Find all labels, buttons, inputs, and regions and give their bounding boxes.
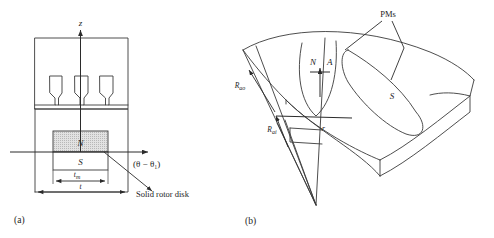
- notch-outline: [290, 128, 322, 144]
- slot-1: [50, 76, 62, 105]
- radial-center-line: [316, 38, 325, 205]
- z-axis-label: z: [78, 18, 83, 28]
- radius-outer-label: Rao: [234, 81, 246, 91]
- notch-top: [290, 128, 322, 130]
- panel-b-group: PMs N A S Rao Rai r (b): [234, 9, 474, 227]
- panel-a-caption: (a): [14, 215, 25, 226]
- radius-inner-leader: [276, 116, 288, 147]
- pms-label: PMs: [380, 9, 396, 19]
- radius-r-label: r: [322, 124, 325, 133]
- point-a-label: A: [326, 57, 333, 67]
- radius-inner-label: Rai: [266, 125, 277, 135]
- pms-leader-to-south: [391, 48, 404, 80]
- panel-a-group: N S z (θ − θ₁) tm t Solid rotor disk (a): [10, 18, 190, 226]
- outer-arc: [243, 32, 474, 81]
- inner-radius-notch: [290, 128, 322, 144]
- radius-r-line: [276, 116, 352, 118]
- magnet-north-label-b: N: [309, 57, 317, 67]
- dim-pole-pitch-label: t: [79, 182, 82, 191]
- right-side-face: [380, 96, 470, 176]
- disk-thickness: [286, 96, 470, 176]
- right-radial-edge: [430, 80, 474, 96]
- radial-line-inner-left: [277, 123, 316, 205]
- pms-leader-right: [392, 21, 404, 48]
- stator-slots: [35, 76, 128, 105]
- dim-pole-pitch: t: [38, 182, 125, 192]
- magnet-south-label-b: S: [390, 91, 395, 101]
- pms-leader-left: [345, 21, 382, 50]
- slot-3: [100, 76, 113, 105]
- figure-svg: N S z (θ − θ₁) tm t Solid rotor disk (a): [0, 0, 494, 238]
- solid-rotor-disk-label: Solid rotor disk: [136, 189, 190, 199]
- theta-angle-label: (θ − θ₁): [133, 159, 160, 169]
- left-side-face: [286, 100, 380, 176]
- panel-b-caption: (b): [245, 216, 256, 227]
- radius-outer-leader: [249, 70, 275, 112]
- magnet-south-label: S: [78, 157, 83, 167]
- magnet-north-outline: [299, 41, 336, 116]
- slot-2: [75, 76, 88, 105]
- figure-container: N S z (θ − θ₁) tm t Solid rotor disk (a): [0, 0, 494, 238]
- stator-body: [35, 38, 128, 109]
- magnet-south-outline: [342, 50, 423, 135]
- dim-magnet-width-label: tm: [74, 170, 81, 180]
